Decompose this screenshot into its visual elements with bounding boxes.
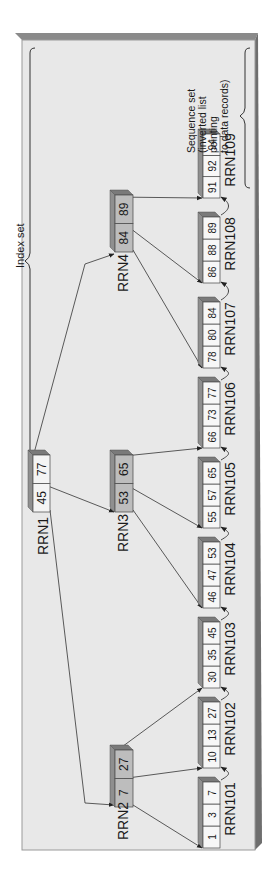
key-value: 80 [207, 329, 218, 341]
key-value: 89 [207, 222, 218, 234]
leaf-node-rrn106: 667377 [198, 377, 220, 448]
key-value: 46 [207, 591, 218, 603]
key-value: 53 [207, 547, 218, 559]
key-value: 92 [207, 160, 218, 172]
box-top-face [110, 745, 115, 807]
sequence-set-label-line: to data records) [218, 79, 230, 153]
leaf-label-rrn106: RRN106 [222, 382, 238, 436]
index-set-label: Index set [14, 223, 26, 268]
key-value: 78 [207, 351, 218, 363]
box-top-face [198, 777, 203, 848]
key-value: 13 [207, 729, 218, 741]
box-top-face [198, 297, 203, 368]
box-top-face [198, 457, 203, 528]
leaf-node-rrn101: 137 [198, 777, 220, 848]
key-value: 55 [207, 511, 218, 523]
leaf-label-rrn104: RRN104 [222, 542, 238, 596]
index-node-rrn2: 727 [110, 745, 133, 807]
key-value: 89 [117, 202, 131, 216]
b-plus-tree-diagram: 4577727536584891371013273035454647535557… [0, 0, 273, 893]
node-label-rrn2: RRN2 [115, 802, 131, 840]
box-top-face [110, 190, 115, 252]
key-value: 35 [207, 649, 218, 661]
key-value: 91 [207, 181, 218, 193]
box-top-face [198, 377, 203, 448]
key-value: 84 [117, 231, 131, 245]
key-value: 47 [207, 569, 218, 581]
leaf-node-rrn102: 101327 [198, 697, 220, 768]
key-value: 45 [35, 491, 49, 505]
diagram-canvas: 4577727536584891371013273035454647535557… [0, 0, 273, 893]
key-value: 77 [207, 387, 218, 399]
leaf-label-rrn107: RRN107 [222, 302, 238, 356]
key-value: 88 [207, 244, 218, 256]
key-value: 57 [207, 489, 218, 501]
key-value: 27 [207, 707, 218, 719]
box-top-face [198, 697, 203, 768]
key-value: 3 [207, 812, 218, 818]
leaf-node-rrn104: 464753 [198, 537, 220, 608]
key-value: 27 [117, 757, 131, 771]
key-value: 65 [117, 462, 131, 476]
leaf-label-rrn101: RRN101 [222, 782, 238, 836]
index-node-rrn3: 5365 [110, 450, 133, 512]
box-top-face [28, 450, 33, 512]
leaf-label-rrn105: RRN105 [222, 462, 238, 516]
key-value: 77 [35, 462, 49, 476]
leaf-node-rrn108: 868889 [198, 212, 220, 283]
key-value: 45 [207, 627, 218, 639]
root-node-rrn1: 4577 [28, 450, 50, 512]
node-label-rrn1: RRN1 [35, 517, 51, 555]
leaf-label-rrn108: RRN108 [222, 217, 238, 271]
key-value: 66 [207, 431, 218, 443]
node-label-rrn4: RRN4 [115, 254, 131, 292]
box-top-face [198, 617, 203, 688]
key-value: 84 [207, 307, 218, 319]
key-value: 1 [207, 834, 218, 840]
key-value: 10 [207, 751, 218, 763]
key-value: 73 [207, 409, 218, 421]
key-value: 65 [207, 467, 218, 479]
key-value: 53 [117, 491, 131, 505]
leaf-label-rrn103: RRN103 [222, 622, 238, 676]
box-top-face [198, 537, 203, 608]
leaf-label-rrn102: RRN102 [222, 702, 238, 756]
node-label-rrn3: RRN3 [115, 514, 131, 552]
leaf-node-rrn103: 303545 [198, 617, 220, 688]
box-top-face [198, 212, 203, 283]
index-node-rrn4: 8489 [110, 190, 133, 252]
box-top-face [110, 450, 115, 512]
leaf-node-rrn105: 555765 [198, 457, 220, 528]
key-value: 86 [207, 266, 218, 278]
key-value: 30 [207, 671, 218, 683]
key-value: 7 [117, 789, 131, 796]
key-value: 7 [207, 790, 218, 796]
leaf-node-rrn107: 788084 [198, 297, 220, 368]
